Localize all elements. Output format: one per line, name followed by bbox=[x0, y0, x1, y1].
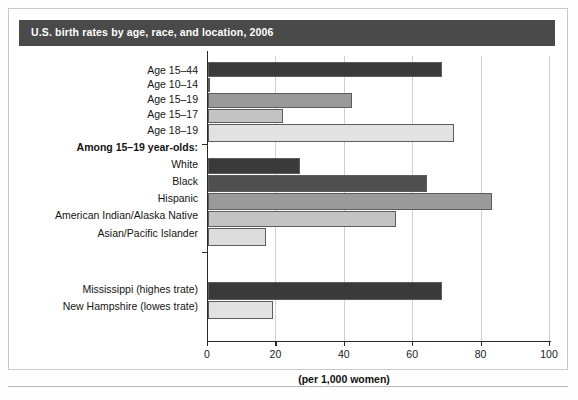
bar-5 bbox=[208, 158, 300, 174]
figure-sheet: U.S. birth rates by age, race, and locat… bbox=[8, 8, 568, 370]
category-label-10: Asian/Pacific Islander bbox=[98, 227, 198, 239]
page-canvas: U.S. birth rates by age, race, and locat… bbox=[0, 0, 578, 400]
bar-1 bbox=[208, 78, 210, 92]
x-tick-80 bbox=[481, 341, 482, 346]
category-label-5: Among 15–19 year-olds: bbox=[77, 141, 198, 153]
y-axis-group-stub-1 bbox=[202, 144, 207, 145]
x-tick-60 bbox=[412, 341, 413, 346]
x-tick-label-100: 100 bbox=[540, 348, 558, 360]
x-tick-100 bbox=[549, 341, 550, 346]
footer-divider bbox=[8, 386, 568, 387]
x-tick-label-80: 80 bbox=[475, 348, 487, 360]
chart-title: U.S. birth rates by age, race, and locat… bbox=[31, 26, 274, 38]
category-label-12: New Hampshire (lowes trate) bbox=[63, 300, 198, 312]
bar-11 bbox=[208, 301, 273, 319]
x-tick-label-40: 40 bbox=[338, 348, 350, 360]
x-tick-label-0: 0 bbox=[204, 348, 210, 360]
bar-9 bbox=[208, 228, 266, 246]
category-label-11: Mississippi (highes trate) bbox=[82, 283, 198, 295]
bar-7 bbox=[208, 193, 492, 210]
bar-2 bbox=[208, 93, 352, 108]
bar-8 bbox=[208, 211, 396, 227]
x-tick-label-20: 20 bbox=[270, 348, 282, 360]
category-label-1: Age 10–14 bbox=[147, 78, 198, 90]
category-label-4: Age 18–19 bbox=[147, 124, 198, 136]
category-label-0: Age 15–44 bbox=[147, 64, 198, 76]
category-label-column: Age 15–44Age 10–14Age 15–19Age 15–17Age … bbox=[9, 56, 202, 341]
x-tick-label-60: 60 bbox=[406, 348, 418, 360]
x-tick-20 bbox=[275, 341, 276, 346]
category-label-6: White bbox=[171, 158, 198, 170]
bar-10 bbox=[208, 282, 442, 300]
x-tick-0 bbox=[207, 341, 208, 346]
x-axis-line bbox=[207, 341, 551, 342]
x-axis-title: (per 1,000 women) bbox=[207, 373, 481, 385]
category-label-8: Hispanic bbox=[158, 192, 198, 204]
plot-area: 020406080100 bbox=[207, 56, 481, 341]
gridline-100 bbox=[549, 56, 550, 341]
category-label-9: American Indian/Alaska Native bbox=[55, 209, 198, 221]
chart-title-bar: U.S. birth rates by age, race, and locat… bbox=[19, 20, 555, 46]
bar-4 bbox=[208, 124, 454, 142]
x-tick-40 bbox=[344, 341, 345, 346]
y-axis-top-stub bbox=[207, 51, 208, 56]
bar-6 bbox=[208, 175, 427, 192]
bar-0 bbox=[208, 62, 442, 77]
y-axis-group-stub-2 bbox=[202, 252, 207, 253]
category-label-3: Age 15–17 bbox=[147, 108, 198, 120]
bar-3 bbox=[208, 109, 283, 123]
category-label-2: Age 15–19 bbox=[147, 93, 198, 105]
category-label-7: Black bbox=[172, 175, 198, 187]
